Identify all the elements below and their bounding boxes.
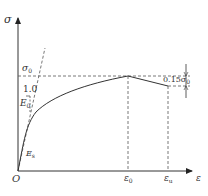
- peak-stress-label: σ0: [22, 64, 32, 74]
- drop-annotation-label: 0.15σ0: [163, 76, 190, 85]
- stress-strain-diagram: [0, 0, 208, 196]
- x-axis-label: ε: [196, 174, 201, 183]
- slope-unit-label: 1.0: [23, 85, 37, 94]
- y-axis-label: σ: [4, 14, 12, 25]
- origin-label: O: [12, 174, 20, 184]
- ultimate-strain-label: εu: [164, 174, 173, 184]
- peak-strain-label: ε0: [124, 174, 133, 184]
- secant-modulus-label: Es: [26, 150, 35, 159]
- stress-strain-curve: [18, 76, 168, 171]
- initial-modulus-label: E0: [20, 99, 30, 109]
